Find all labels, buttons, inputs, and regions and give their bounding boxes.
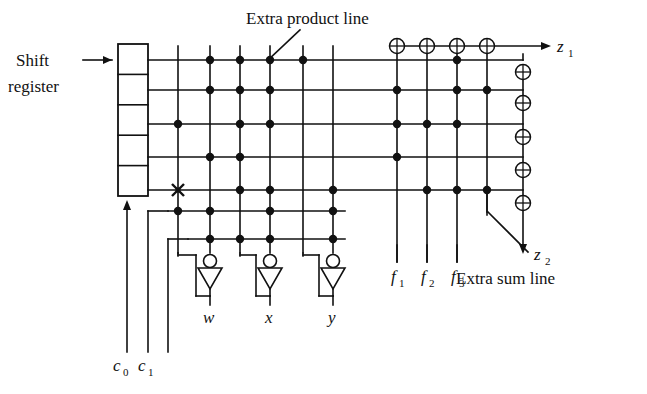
svg-text:z: z [533, 245, 541, 264]
input-stems [210, 296, 333, 305]
xor-gate-right-4 [516, 163, 531, 178]
bottom-input-bus [148, 211, 188, 352]
xor-gate-right-3 [516, 130, 531, 145]
f1-label: f 1 [391, 267, 405, 289]
c0-label: c 0 [113, 356, 129, 378]
shift-label-line1: Shift [16, 51, 49, 70]
inverter-complement-links [178, 253, 319, 256]
extra-sum-leader [488, 212, 528, 252]
c1-label: c 1 [138, 356, 154, 378]
svg-text:2: 2 [545, 255, 551, 267]
shift-register-box [118, 44, 148, 196]
pla-diagram-svg: Shift register Extra product line Extra … [0, 0, 647, 394]
extra-sum-line-label: Extra sum line [456, 269, 555, 288]
svg-text:f: f [391, 267, 398, 286]
z1-label: z 1 [556, 37, 574, 59]
svg-text:f: f [421, 267, 428, 286]
inverter-y [319, 255, 345, 297]
svg-text:z: z [556, 37, 564, 56]
svg-text:1: 1 [148, 366, 154, 378]
svg-text:c: c [113, 356, 121, 375]
svg-text:2: 2 [429, 277, 435, 289]
svg-text:1: 1 [399, 277, 405, 289]
svg-text:c: c [138, 356, 146, 375]
input-label-w: w [203, 308, 215, 327]
xor-gate-top-1 [390, 39, 405, 54]
svg-text:0: 0 [123, 366, 129, 378]
shift-register-input-arrow [83, 56, 112, 64]
extra-product-leader [268, 30, 300, 60]
input-label-x: x [264, 308, 273, 327]
xor-gate-right-1 [516, 65, 531, 80]
xor-gate-top-2 [420, 39, 435, 54]
xor-gate-top-3 [450, 39, 465, 54]
shift-label-line2: register [8, 77, 59, 96]
sum-term-columns [397, 54, 487, 262]
f2-label: f 2 [421, 267, 435, 289]
f-output-stems [397, 245, 457, 262]
z2-label: z 2 [533, 245, 551, 267]
svg-text:3: 3 [459, 277, 465, 289]
product-term-columns [178, 46, 333, 253]
shift-register-clock-arrow [123, 200, 131, 352]
xor-gate-top-4 [480, 39, 495, 54]
extra-product-line-label: Extra product line [246, 9, 369, 28]
inverter-x [256, 255, 282, 297]
xor-gate-right-2 [516, 96, 531, 111]
figure-canvas: Shift register Extra product line Extra … [0, 0, 647, 394]
svg-text:1: 1 [568, 47, 574, 59]
input-label-y: y [326, 308, 336, 327]
inverter-w [178, 253, 222, 296]
xor-gate-right-5 [516, 196, 531, 211]
